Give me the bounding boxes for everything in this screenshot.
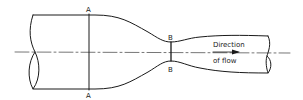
flow-label-line2: of flow: [213, 57, 237, 65]
section-b-bottom-label: B: [168, 66, 173, 74]
venturi-diagram: A A B B Direction of flow: [0, 0, 303, 100]
section-a-bottom-label: A: [86, 92, 91, 100]
flow-label-line1: Direction: [213, 41, 245, 49]
venturi-svg: A A B B Direction of flow: [0, 0, 303, 100]
section-b-top-label: B: [168, 34, 173, 42]
section-a-top-label: A: [86, 6, 91, 14]
right-break-icon: [266, 36, 271, 73]
right-arrow-icon: [232, 50, 240, 55]
centerline: [15, 52, 290, 53]
pipe-bottom-outline: [33, 61, 268, 89]
pipe-top-outline: [33, 15, 268, 42]
